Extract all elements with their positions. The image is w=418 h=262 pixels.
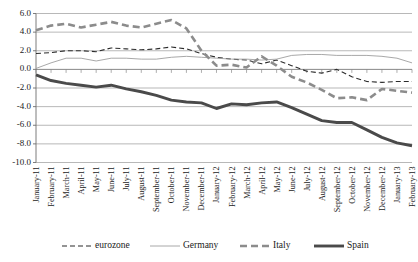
x-tick-label: August-12: [318, 167, 327, 202]
y-tick-label: -10.0: [12, 157, 31, 167]
x-axis-labels: January-11February-11March-11April-11May…: [32, 167, 417, 213]
series-line-spain: [36, 75, 412, 146]
chart-legend: eurozoneGermanyItalySpain: [62, 240, 369, 250]
x-tick-label: October-12: [348, 167, 357, 204]
x-tick-label: January-11: [32, 167, 41, 203]
x-tick-label: February-12: [228, 167, 237, 207]
x-tick-label: July-11: [122, 167, 131, 191]
x-tick-label: February-13: [408, 167, 417, 207]
y-tick-label: -6.0: [17, 119, 32, 129]
x-tick-label: September-12: [333, 167, 342, 213]
x-tick-label: July-12: [303, 167, 312, 192]
data-series: [36, 20, 412, 146]
line-chart: 6.04.02.00.0-2.0-4.0-6.0-8.0-10.0 Januar…: [0, 0, 418, 262]
x-tick-label: March-12: [243, 167, 252, 199]
y-tick-label: -8.0: [17, 138, 32, 148]
y-tick-label: -2.0: [17, 82, 32, 92]
x-tick-label: March-11: [62, 167, 71, 199]
legend-label-spain: Spain: [347, 240, 369, 250]
x-tick-label: September-11: [152, 167, 161, 212]
x-tick-label: April-11: [77, 167, 86, 195]
legend-label-italy: Italy: [273, 240, 291, 250]
legend-label-germany: Germany: [183, 240, 219, 250]
y-tick-label: 4.0: [20, 26, 32, 36]
x-tick-label: May-11: [92, 167, 101, 193]
y-tick-label: 0.0: [20, 63, 32, 73]
x-tick-label: November-11: [182, 167, 191, 212]
x-tick-label: January-12: [212, 167, 221, 203]
x-tick-label: October-11: [167, 167, 176, 204]
x-axis-ticks: [36, 69, 412, 73]
y-tick-label: -4.0: [17, 101, 32, 111]
x-tick-label: November-12: [363, 167, 372, 212]
y-tick-label: 6.0: [20, 8, 32, 18]
x-tick-label: April-12: [258, 167, 267, 195]
legend-label-eurozone: eurozone: [95, 240, 130, 250]
x-tick-label: June-12: [288, 167, 297, 193]
x-tick-label: June-11: [107, 167, 116, 193]
x-tick-label: December-11: [197, 167, 206, 211]
x-tick-label: January-13: [393, 167, 402, 203]
x-tick-label: August-11: [137, 167, 146, 201]
x-tick-label: December-12: [378, 167, 387, 211]
y-axis: 6.04.02.00.0-2.0-4.0-6.0-8.0-10.0: [12, 8, 36, 167]
x-tick-label: May-12: [273, 167, 282, 193]
y-tick-label: 2.0: [20, 45, 32, 55]
x-tick-label: February-11: [47, 167, 56, 207]
chart-container: 6.04.02.00.0-2.0-4.0-6.0-8.0-10.0 Januar…: [0, 0, 418, 262]
